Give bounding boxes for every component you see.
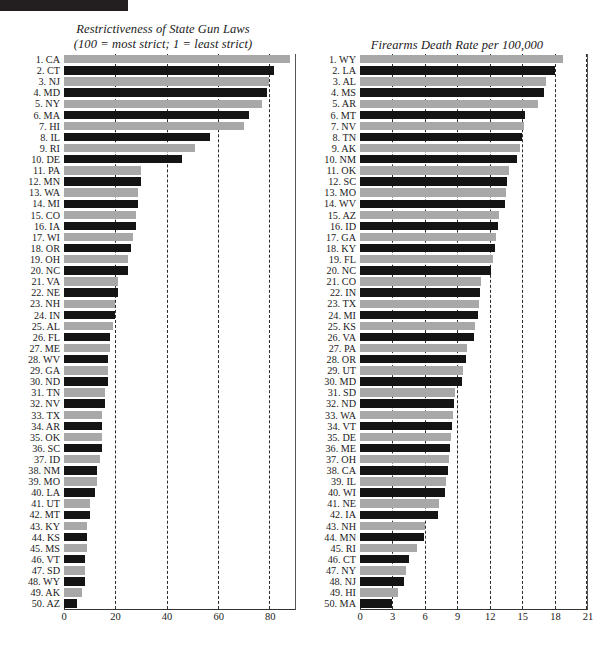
- category-label-death-ri: 45. RI: [331, 543, 356, 554]
- bar-row: [64, 476, 295, 487]
- category-label-laws-id: 37. ID: [34, 454, 60, 465]
- bar-row: [64, 565, 295, 576]
- bar-row: [64, 221, 295, 232]
- category-label-death-pa: 27. PA: [329, 343, 356, 354]
- category-label-laws-co: 15. CO: [31, 210, 60, 221]
- bar-row: [360, 121, 587, 132]
- bar-row: [64, 487, 295, 498]
- tick-label-laws-80: 80: [265, 611, 276, 622]
- category-label-laws-ky: 43. KY: [30, 521, 60, 532]
- bar-row: [360, 476, 587, 487]
- category-label-laws-sd: 47. SD: [32, 565, 60, 576]
- bar-row: [64, 387, 295, 398]
- bar-death-id: [360, 222, 498, 230]
- plot-area-firearms-death-rate: [360, 54, 588, 610]
- category-label-laws-ca: 1. CA: [36, 54, 60, 65]
- tick-label-death-15: 15: [518, 611, 529, 622]
- bar-laws-me: [64, 344, 110, 352]
- category-label-death-or: 28. OR: [327, 354, 356, 365]
- bar-laws-mo: [64, 477, 97, 485]
- chart-body-gun-laws: 1. CA2. CT3. NJ4. MD5. NY6. MA7. HI8. IL…: [4, 54, 296, 626]
- bar-death-nh: [360, 522, 425, 530]
- category-label-death-fl: 19. FL: [329, 254, 356, 265]
- category-label-death-il: 39. IL: [331, 476, 356, 487]
- bar-death-de: [360, 433, 451, 441]
- bar-row: [360, 410, 587, 421]
- bar-row: [360, 87, 587, 98]
- tick-label-laws-40: 40: [162, 611, 173, 622]
- category-label-death-ar: 5. AR: [332, 98, 356, 109]
- category-label-death-sc: 12. SC: [328, 176, 356, 187]
- category-label-laws-mi: 14. MI: [32, 198, 60, 209]
- category-label-death-ks: 25. KS: [328, 321, 356, 332]
- chart-title-firearms-death-rate: Firearms Death Rate per 100,000: [296, 22, 588, 54]
- bar-row: [64, 54, 295, 65]
- category-label-death-tn: 8. TN: [332, 132, 356, 143]
- bar-row: [360, 132, 587, 143]
- bar-row: [360, 432, 587, 443]
- bar-row: [360, 587, 587, 598]
- bar-row: [64, 410, 295, 421]
- category-label-death-in: 22. IN: [330, 287, 356, 298]
- bar-row: [360, 110, 587, 121]
- category-label-death-mi: 24. MI: [328, 310, 356, 321]
- category-label-laws-ok: 35. OK: [30, 432, 60, 443]
- bar-laws-il: [64, 133, 210, 141]
- bar-row: [64, 587, 295, 598]
- bar-death-nc: [360, 266, 491, 274]
- bar-death-al: [360, 77, 546, 85]
- chart-title-line2: (100 = most strict; 1 = least strict): [74, 37, 253, 51]
- category-label-death-sd: 31. SD: [328, 387, 356, 398]
- category-label-death-hi: 49. HI: [330, 587, 356, 598]
- bar-laws-fl: [64, 333, 110, 341]
- category-label-death-ny: 47. NY: [326, 565, 356, 576]
- tick-label-death-21: 21: [583, 611, 593, 622]
- category-label-death-ct: 46. CT: [328, 554, 356, 565]
- bar-death-ny: [360, 566, 406, 574]
- bar-death-ky: [360, 244, 495, 252]
- bar-row: [64, 176, 295, 187]
- bar-laws-ct: [64, 66, 274, 74]
- bar-row: [360, 254, 587, 265]
- category-label-death-nj: 48. NJ: [329, 576, 356, 587]
- bar-death-wa: [360, 411, 453, 419]
- bar-row: [64, 454, 295, 465]
- bar-laws-wa: [64, 188, 138, 196]
- bar-laws-wi: [64, 233, 133, 241]
- chart-panel-firearms-death-rate: Firearms Death Rate per 100,000 1. WY2. …: [296, 22, 588, 650]
- bar-laws-ne: [64, 288, 118, 296]
- bar-laws-ia: [64, 222, 136, 230]
- category-label-laws-il: 8. IL: [40, 132, 60, 143]
- category-label-death-oh: 37. OH: [326, 454, 356, 465]
- bar-row: [64, 376, 295, 387]
- bar-row: [64, 165, 295, 176]
- chart-panel-gun-laws: Restrictiveness of State Gun Laws(100 = …: [0, 22, 296, 650]
- category-label-death-az: 15. AZ: [328, 210, 356, 221]
- bars-gun-laws: [64, 54, 295, 609]
- bar-row: [64, 332, 295, 343]
- bar-row: [64, 321, 295, 332]
- category-label-laws-az: 50. AZ: [32, 598, 60, 609]
- bar-row: [360, 176, 587, 187]
- bar-laws-wy: [64, 577, 85, 585]
- bar-row: [64, 121, 295, 132]
- category-label-death-md: 30. MD: [324, 376, 356, 387]
- bar-row: [64, 265, 295, 276]
- category-label-death-ak: 9. AK: [332, 143, 356, 154]
- bar-row: [360, 265, 587, 276]
- bar-laws-al: [64, 322, 113, 330]
- category-label-death-ut: 29. UT: [327, 365, 356, 376]
- category-label-death-ok: 11. OK: [326, 165, 356, 176]
- category-axis-gun-laws: 1. CA2. CT3. NJ4. MD5. NY6. MA7. HI8. IL…: [4, 54, 64, 626]
- bar-row: [360, 243, 587, 254]
- category-label-laws-ne: 22. NE: [31, 287, 60, 298]
- bar-row: [360, 454, 587, 465]
- category-label-death-wi: 40. WI: [328, 487, 356, 498]
- bar-laws-tn: [64, 388, 105, 396]
- bar-row: [64, 576, 295, 587]
- bar-row: [64, 154, 295, 165]
- bar-death-oh: [360, 455, 449, 463]
- bar-laws-va: [64, 277, 118, 285]
- category-label-laws-wy: 48. WY: [28, 576, 60, 587]
- category-label-death-nm: 10. NM: [324, 154, 356, 165]
